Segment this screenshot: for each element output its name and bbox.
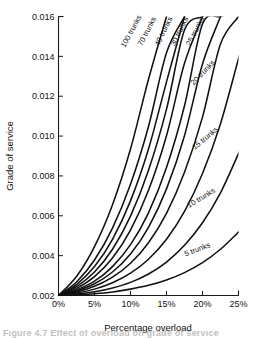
x-tick-label: 25% [229, 299, 247, 309]
y-tick-label: 0.012 [32, 91, 55, 101]
y-tick-label: 0.014 [32, 52, 55, 62]
x-tick-label: 20% [193, 299, 211, 309]
x-tick-label: 5% [88, 299, 101, 309]
y-tick-label: 0.004 [32, 251, 55, 261]
figure-container: 0.0020.0040.0060.0080.0100.0120.0140.016… [0, 0, 253, 338]
figure-caption-strip: Figure 4.7 Effect of overload on grade o… [0, 330, 253, 338]
x-tick-label: 0% [52, 299, 65, 309]
y-tick-label: 0.008 [32, 171, 55, 181]
y-tick-label: 0.006 [32, 211, 55, 221]
y-tick-label: 0.016 [32, 12, 55, 22]
y-tick-label: 0.010 [32, 131, 55, 141]
figure-caption: Figure 4.7 Effect of overload on grade o… [3, 330, 219, 338]
x-tick-label: 10% [121, 299, 139, 309]
y-axis-title: Grade of service [4, 121, 15, 191]
grade-of-service-chart: 0.0020.0040.0060.0080.0100.0120.0140.016… [0, 0, 253, 338]
x-tick-label: 15% [157, 299, 175, 309]
